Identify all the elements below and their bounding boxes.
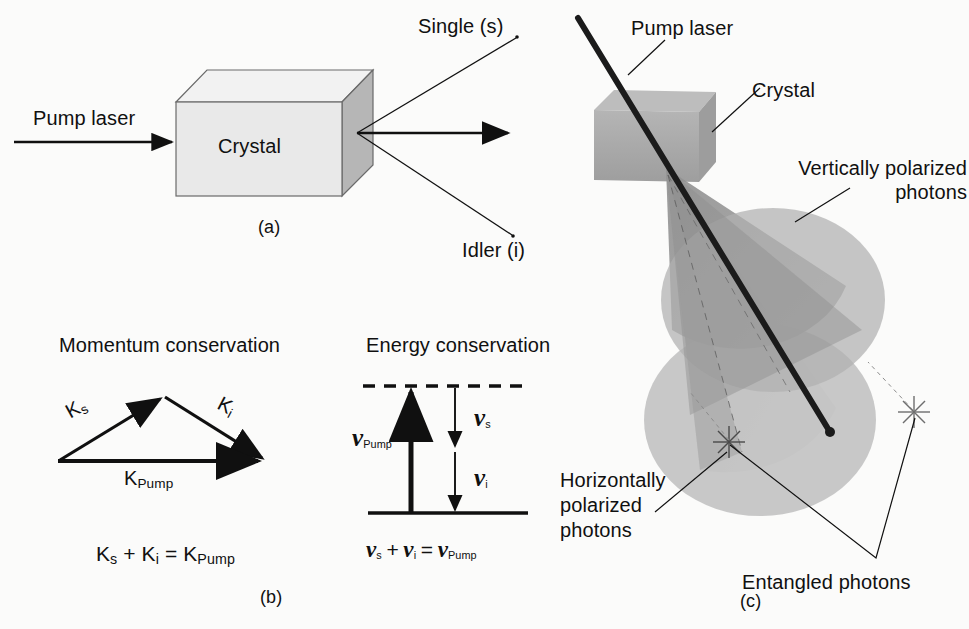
horizontal-photons-line3: photons xyxy=(560,520,666,541)
momentum-eq-a: K xyxy=(96,542,110,565)
horizontal-photons-line1: Horizontally xyxy=(560,470,666,491)
vertical-photons-line2: photons xyxy=(795,182,967,203)
panel-a-signal-label: Single (s) xyxy=(418,16,503,37)
nu-i-subscript: i xyxy=(485,478,488,490)
nu-pump-subscript: Pump xyxy=(363,438,392,450)
panel-c-crystal-label: Crystal xyxy=(752,80,815,101)
panel-a-idler-label: Idler (i) xyxy=(462,240,525,261)
idler-ray-a xyxy=(357,133,512,235)
momentum-eq-b: K xyxy=(142,542,156,565)
figure-spdc: Pump laser Crystal Single (s) Idler (i) … xyxy=(0,0,969,629)
figure-graphics xyxy=(0,0,969,629)
nu-pump-symbol: ν xyxy=(352,424,363,451)
nu-s-label: νs xyxy=(474,405,491,431)
energy-eq-c: ν xyxy=(438,537,448,562)
energy-heading: Energy conservation xyxy=(366,335,550,356)
momentum-eq-c-sub: Pump xyxy=(197,551,235,567)
vector-ki xyxy=(165,397,262,458)
momentum-eq-b-sub: i xyxy=(156,551,159,567)
pump-beam-endpoint xyxy=(825,427,835,437)
momentum-eq-c: K xyxy=(183,542,197,565)
energy-equation: νs + νi = νPump xyxy=(366,538,477,562)
energy-eq-b: ν xyxy=(403,537,413,562)
panel-c-entangled-photons-label: Entangled photons xyxy=(742,572,911,593)
vector-kpump-symbol: K xyxy=(124,467,137,489)
crystal-c-top xyxy=(594,90,716,112)
crystal-c-front xyxy=(594,110,699,182)
marker-ray-right xyxy=(868,362,913,410)
nu-i-label: νi xyxy=(474,465,488,491)
momentum-eq-equals: = xyxy=(165,542,177,565)
momentum-eq-plus: + xyxy=(123,542,135,565)
vector-kpump-subscript: Pump xyxy=(137,476,173,491)
panel-c-horizontal-photons-label: Horizontally polarized photons xyxy=(560,470,666,541)
energy-eq-a-sub: s xyxy=(376,549,382,561)
panel-b-caption: (b) xyxy=(260,588,282,607)
panel-c-pump-label: Pump laser xyxy=(631,18,733,39)
energy-eq-b-sub: i xyxy=(414,549,417,561)
vector-kpump-label: KPump xyxy=(124,468,173,491)
energy-eq-plus: + xyxy=(386,538,398,561)
horizontal-photons-line2: polarized xyxy=(560,495,666,516)
nu-i-symbol: ν xyxy=(474,464,485,491)
signal-ray-a xyxy=(357,38,516,133)
panel-c-caption: (c) xyxy=(740,592,761,611)
panel-a-caption: (a) xyxy=(258,218,280,237)
nu-pump-label: νPump xyxy=(352,425,392,451)
energy-eq-a: ν xyxy=(366,537,376,562)
crystal-top-face xyxy=(176,70,373,102)
vertical-photons-line1: Vertically polarized xyxy=(795,158,967,179)
energy-eq-c-sub: Pump xyxy=(448,549,477,561)
momentum-equation: Ks + Ki = KPump xyxy=(96,543,235,567)
panel-c-vertical-photons-label: Vertically polarized photons xyxy=(795,158,967,203)
momentum-heading: Momentum conservation xyxy=(59,335,280,356)
energy-eq-equals: = xyxy=(421,538,433,561)
panel-a-crystal-label: Crystal xyxy=(218,136,281,157)
panel-a-pump-label: Pump laser xyxy=(33,108,135,129)
momentum-eq-a-sub: s xyxy=(110,551,117,567)
nu-s-symbol: ν xyxy=(474,404,485,431)
idler-ray-endpoint xyxy=(511,234,515,238)
leader-pump-laser-c xyxy=(628,40,665,75)
signal-ray-endpoint xyxy=(515,35,519,39)
nu-s-subscript: s xyxy=(485,418,491,430)
